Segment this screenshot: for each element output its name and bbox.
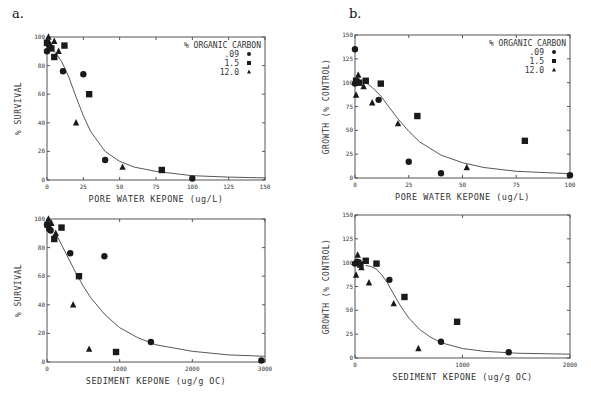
marker-square: [373, 260, 379, 266]
marker-circle: [60, 68, 66, 74]
x-tick-label: 3000: [258, 365, 273, 372]
y-tick-label: 150: [342, 211, 353, 218]
y-axis-label: GROWTH (% CONTROL): [322, 59, 331, 155]
x-tick-label: 75: [152, 183, 160, 190]
marker-circle: [47, 227, 53, 233]
marker-triangle: [415, 345, 421, 351]
marker-circle: [552, 50, 556, 54]
marker-square: [51, 236, 57, 242]
x-tick-label: 25: [405, 181, 413, 188]
y-tick-label: 25: [346, 150, 354, 157]
marker-triangle: [86, 345, 92, 351]
legend-entry-label: 1.5: [530, 57, 545, 66]
x-tick-label: 25: [80, 183, 88, 190]
y-axis-label: % SURVIVAL: [14, 82, 23, 135]
x-tick-label: 0: [45, 365, 49, 372]
y-tick-label: 40: [38, 119, 46, 126]
legend-entry-label: .09: [225, 50, 240, 59]
marker-circle: [438, 339, 444, 345]
legend-entry-label: .09: [530, 48, 545, 57]
x-tick-label: 2000: [185, 365, 200, 372]
y-tick-label: 50: [346, 126, 354, 133]
marker-triangle: [55, 48, 61, 54]
marker-triangle: [73, 119, 79, 125]
marker-square: [454, 319, 460, 325]
y-tick-label: 125: [342, 55, 353, 62]
marker-square: [61, 42, 67, 48]
y-tick-label: 100: [342, 259, 353, 266]
series-1p5: [355, 258, 460, 325]
y-tick-label: 125: [342, 235, 353, 242]
marker-circle: [352, 46, 358, 52]
x-tick-label: 1000: [455, 361, 470, 368]
marker-square: [356, 79, 362, 85]
series-p09: [44, 41, 196, 182]
x-tick-label: 1000: [112, 365, 127, 372]
x-tick-label: 0: [45, 183, 49, 190]
x-axis-label: PORE WATER KEPONE (ug/L): [395, 192, 530, 202]
marker-circle: [148, 339, 154, 345]
marker-circle: [438, 170, 444, 176]
x-tick-label: 150: [260, 183, 271, 190]
x-tick-label: 100: [565, 181, 576, 188]
marker-triangle: [353, 271, 359, 277]
y-tick-label: 25: [346, 330, 354, 337]
series-12p0: [45, 33, 126, 170]
marker-circle: [386, 277, 392, 283]
marker-triangle: [70, 301, 76, 307]
chart-b-bottom: 0100020000255075100125150SEDIMENT KEPONE…: [322, 211, 578, 382]
x-tick-label: 0: [353, 181, 357, 188]
y-tick-label: 75: [346, 103, 354, 110]
marker-square: [113, 349, 119, 355]
x-tick-label: 75: [513, 181, 521, 188]
marker-square: [378, 80, 384, 86]
chart-a-bottom: 0100020003000020406080100SEDIMENT KEPONE…: [14, 215, 273, 386]
legend: % ORGANIC CARBON.091.512.0: [184, 41, 261, 77]
marker-square: [159, 167, 165, 173]
marker-square: [414, 113, 420, 119]
marker-square: [44, 40, 50, 46]
legend-entry-label: 1.5: [225, 59, 240, 68]
series-12p0: [45, 215, 92, 352]
y-tick-label: 80: [38, 244, 46, 251]
series-p09: [44, 222, 265, 364]
marker-circle: [567, 172, 573, 178]
marker-square: [48, 45, 54, 51]
marker-triangle: [51, 38, 57, 44]
marker-triangle: [355, 71, 361, 77]
marker-square: [76, 273, 82, 279]
x-axis-label: PORE WATER KEPONE (ug/L): [89, 194, 224, 204]
y-tick-label: 150: [342, 31, 353, 38]
y-tick-label: 0: [41, 176, 45, 183]
fit-curve: [56, 233, 265, 356]
fit-curve: [366, 83, 570, 174]
marker-triangle: [369, 99, 375, 105]
legend-title: % ORGANIC CARBON: [489, 39, 566, 48]
x-tick-label: 50: [116, 183, 124, 190]
marker-triangle: [366, 279, 372, 285]
marker-triangle: [464, 164, 470, 170]
marker-square: [522, 138, 528, 144]
marker-square: [401, 294, 407, 300]
x-tick-label: 100: [187, 183, 198, 190]
series-1p5: [44, 40, 165, 174]
marker-circle: [375, 97, 381, 103]
x-tick-label: 50: [459, 181, 467, 188]
y-tick-label: 100: [342, 79, 353, 86]
marker-circle: [506, 349, 512, 355]
y-axis-label: GROWTH (% CONTROL): [322, 239, 331, 335]
marker-triangle: [552, 68, 556, 72]
y-tick-label: 0: [41, 358, 45, 365]
figure-canvas: 0255075100125150020406080100PORE WATER K…: [0, 0, 591, 394]
marker-circle: [101, 253, 107, 259]
plot-frame: [355, 215, 570, 358]
series-p09: [352, 259, 512, 356]
y-tick-label: 60: [38, 272, 46, 279]
chart-b-top: 02550751000255075100125150PORE WATER KEP…: [322, 31, 576, 202]
plot-frame: [47, 219, 265, 362]
x-tick-label: 0: [353, 361, 357, 368]
y-tick-label: 40: [38, 301, 46, 308]
x-tick-label: 2000: [563, 361, 578, 368]
marker-circle: [247, 52, 251, 56]
marker-square: [552, 59, 556, 63]
